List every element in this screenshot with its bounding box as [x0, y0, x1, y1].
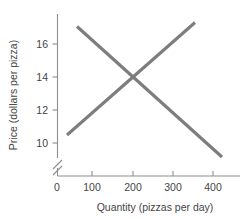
x-tick-label-0: 0	[54, 181, 60, 193]
y-tick-label-12: 12	[36, 104, 48, 116]
x-tick-label-200: 200	[124, 181, 142, 193]
y-axis-title: Price (dollars per pizza)	[7, 40, 19, 150]
y-tick-label-10: 10	[36, 137, 48, 149]
supply-demand-chart: 16 14 12 10 0 100 200 300 400 Quantity (…	[0, 0, 250, 221]
demand-curve	[77, 27, 222, 158]
y-tick-label-16: 16	[36, 38, 48, 50]
y-axis-ticks	[53, 44, 58, 143]
x-axis-ticks	[92, 171, 213, 176]
x-axis-title: Quantity (pizzas per day)	[97, 201, 214, 213]
chart-canvas: 16 14 12 10 0 100 200 300 400 Quantity (…	[0, 0, 250, 221]
y-tick-label-14: 14	[36, 71, 48, 83]
x-tick-label-400: 400	[204, 181, 222, 193]
x-tick-label-300: 300	[164, 181, 182, 193]
supply-curve	[67, 23, 195, 136]
x-tick-label-100: 100	[83, 181, 101, 193]
